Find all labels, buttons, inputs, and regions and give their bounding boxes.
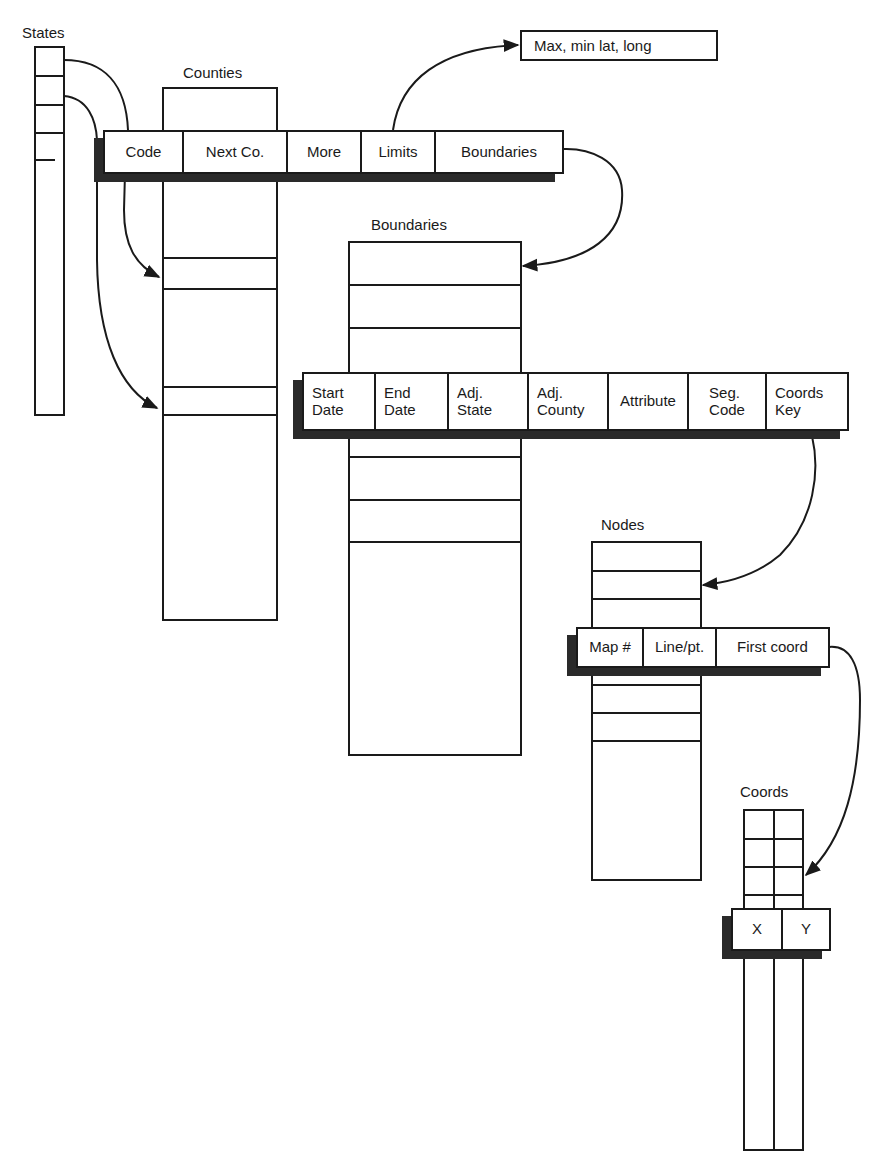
link-states-to-code [64, 60, 128, 130]
counties-row-divider [164, 288, 276, 290]
field-limits: Limits [362, 132, 436, 172]
field-end-date: End Date [376, 374, 449, 429]
states-row-divider [36, 159, 55, 161]
coords-row-divider [745, 838, 802, 840]
field-y: Y [783, 910, 829, 949]
field-coords-key: Coords Key [767, 374, 847, 429]
boundaries-table [348, 241, 522, 756]
coords-column-divider [773, 811, 775, 1149]
states-row-divider [36, 75, 63, 77]
field-x: X [733, 910, 783, 949]
field-adj-state: Adj. State [449, 374, 529, 429]
link-first-coord-to-coords [806, 647, 860, 875]
counties-row-divider [164, 414, 276, 416]
field-seg-code: Seg. Code [689, 374, 767, 429]
coords-title: Coords [740, 784, 788, 799]
boundaries-row-divider [350, 499, 520, 501]
field-next-county: Next Co. [184, 132, 288, 172]
states-title: States [22, 25, 65, 40]
counties-row-divider [164, 386, 276, 388]
coords-record: X Y [731, 908, 831, 951]
field-code: Code [105, 132, 184, 172]
limits-note-box: Max, min lat, long [520, 30, 718, 61]
counties-row-divider [164, 257, 276, 259]
field-first-coord: First coord [717, 629, 828, 666]
field-start-date: Start Date [304, 374, 376, 429]
states-row-divider [36, 132, 63, 134]
nodes-table [591, 541, 702, 881]
coords-table [743, 809, 804, 1151]
nodes-title: Nodes [601, 517, 644, 532]
coords-row-divider [745, 866, 802, 868]
nodes-row-divider [593, 712, 700, 714]
field-attribute: Attribute [609, 374, 689, 429]
boundaries-record: Start Date End Date Adj. State Adj. Coun… [302, 372, 849, 431]
nodes-row-divider [593, 570, 700, 572]
field-more: More [288, 132, 362, 172]
boundaries-row-divider [350, 456, 520, 458]
counties-title: Counties [183, 65, 242, 80]
coords-row-divider [745, 894, 802, 896]
states-row-divider [36, 104, 63, 106]
boundaries-row-divider [350, 327, 520, 329]
field-boundaries: Boundaries [436, 132, 562, 172]
link-code-to-counties-row [124, 173, 159, 277]
boundaries-title: Boundaries [371, 217, 447, 232]
nodes-row-divider [593, 740, 700, 742]
nodes-row-divider [593, 684, 700, 686]
boundaries-row-divider [350, 541, 520, 543]
link-limits-to-max-min [393, 45, 518, 130]
states-table [34, 46, 65, 416]
nodes-record: Map # Line/pt. First coord [576, 627, 830, 668]
link-coords-key-to-nodes [703, 436, 815, 585]
field-adj-county: Adj. County [529, 374, 609, 429]
counties-record: Code Next Co. More Limits Boundaries [103, 130, 564, 174]
field-map-number: Map # [578, 629, 644, 666]
nodes-row-divider [593, 598, 700, 600]
field-line-pt: Line/pt. [644, 629, 717, 666]
boundaries-row-divider [350, 284, 520, 286]
